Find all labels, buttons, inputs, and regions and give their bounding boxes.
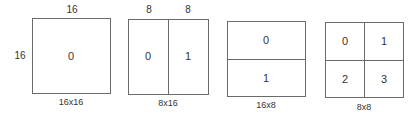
cell-1: 1 [178, 50, 198, 62]
block-8x16: 0 1 [128, 19, 209, 95]
vertical-divider [168, 20, 169, 94]
partition-caption: 8x16 [138, 98, 198, 108]
horizontal-divider [228, 59, 305, 60]
cell-0: 0 [61, 50, 81, 62]
cell-2: 2 [335, 73, 355, 85]
horizontal-divider [326, 60, 403, 61]
cell-3: 3 [374, 73, 394, 85]
cell-1: 1 [374, 35, 394, 47]
cell-1: 1 [256, 72, 276, 84]
width-label-right: 8 [178, 5, 198, 15]
cell-0: 0 [138, 50, 158, 62]
partition-caption: 16x8 [236, 100, 296, 110]
partition-caption: 16x16 [41, 97, 101, 107]
partition-caption: 8x8 [334, 102, 394, 112]
width-label-left: 8 [139, 5, 159, 15]
height-label: 16 [10, 51, 30, 61]
block-8x8: 0 1 2 3 [325, 22, 404, 98]
width-label: 16 [62, 5, 82, 15]
cell-0: 0 [256, 34, 276, 46]
cell-0: 0 [335, 35, 355, 47]
block-16x16: 0 [32, 18, 111, 94]
block-16x8: 0 1 [227, 21, 306, 97]
